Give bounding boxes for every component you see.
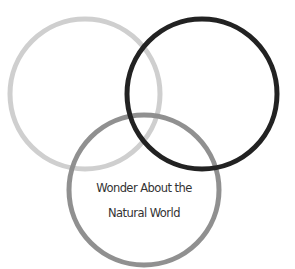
label-line-1: Wonder About the	[80, 175, 209, 200]
center-circle-label: Wonder About the Natural World	[80, 175, 209, 225]
label-line-2: Natural World	[80, 200, 209, 225]
venn-diagram	[0, 0, 295, 269]
